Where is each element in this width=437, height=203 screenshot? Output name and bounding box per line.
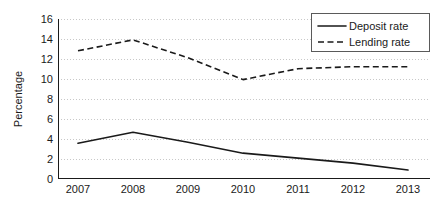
legend: Deposit rate Lending rate: [312, 14, 430, 52]
legend-label-lending-rate: Lending rate: [349, 36, 410, 48]
line-chart: 16 14 12 10 8 6 4 2 0 2007 2008 2009 201…: [0, 0, 437, 203]
y-tick-label-14: 14: [41, 33, 53, 45]
series-line-deposit-rate: [78, 132, 408, 170]
x-tick-label-2011: 2011: [286, 183, 310, 195]
x-tick-label-2010: 2010: [231, 183, 255, 195]
x-tick-labels: 2007 2008 2009 2010 2011 2012 2013: [66, 183, 420, 195]
y-tick-label-2: 2: [47, 153, 53, 165]
y-tick-label-6: 6: [47, 113, 53, 125]
y-tick-label-12: 12: [41, 53, 53, 65]
x-tick-label-2013: 2013: [396, 183, 420, 195]
x-tick-label-2009: 2009: [176, 183, 200, 195]
legend-label-deposit-rate: Deposit rate: [349, 20, 408, 32]
y-tick-labels: 16 14 12 10 8 6 4 2 0: [41, 13, 53, 185]
x-tick-label-2012: 2012: [341, 183, 365, 195]
x-tick-label-2008: 2008: [121, 183, 145, 195]
y-tick-label-10: 10: [41, 73, 53, 85]
y-tick-label-16: 16: [41, 13, 53, 25]
y-tick-label-0: 0: [47, 173, 53, 185]
y-tick-label-8: 8: [47, 93, 53, 105]
y-tick-label-4: 4: [47, 133, 53, 145]
x-tick-label-2007: 2007: [66, 183, 90, 195]
chart-figure: 16 14 12 10 8 6 4 2 0 2007 2008 2009 201…: [0, 0, 437, 203]
y-axis-title: Percentage: [12, 71, 24, 127]
